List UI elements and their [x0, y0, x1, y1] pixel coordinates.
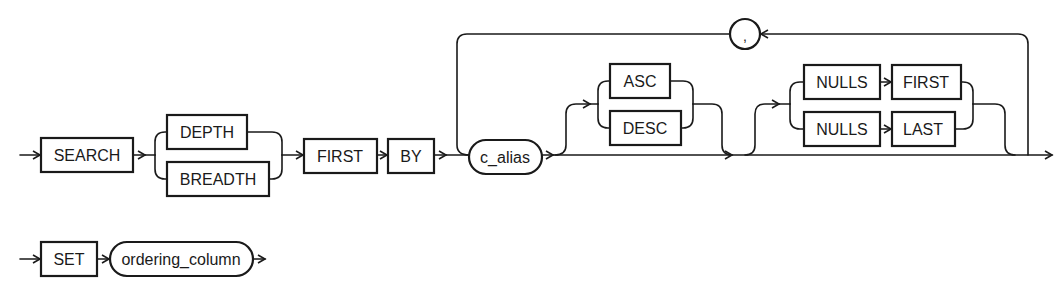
keyword-nulls-1: NULLS — [804, 65, 880, 99]
svg-text:LAST: LAST — [903, 121, 943, 138]
svg-text:NULLS: NULLS — [816, 121, 868, 138]
keyword-depth: DEPTH — [167, 115, 247, 149]
svg-text:FIRST: FIRST — [317, 148, 363, 165]
keyword-by: BY — [388, 139, 434, 173]
svg-text:DESC: DESC — [623, 120, 667, 137]
svg-text:BREADTH: BREADTH — [180, 171, 256, 188]
keyword-nulls-2: NULLS — [804, 112, 880, 146]
svg-text:SET: SET — [53, 251, 84, 268]
keyword-set: SET — [41, 242, 97, 276]
keyword-first: FIRST — [304, 139, 377, 173]
svg-text:ordering_column: ordering_column — [121, 251, 240, 269]
svg-text:DEPTH: DEPTH — [180, 124, 234, 141]
keyword-search: SEARCH — [41, 138, 133, 172]
svg-text:SEARCH: SEARCH — [54, 147, 121, 164]
railroad-diagram-canvas: SEARCH DEPTH BREADTH FIRST BY c_alias , — [0, 0, 1063, 300]
keyword-asc: ASC — [610, 64, 670, 98]
separator-comma: , — [730, 19, 760, 49]
syntax-diagram: SEARCH DEPTH BREADTH FIRST BY c_alias , — [0, 0, 1063, 300]
keyword-nulls-last: LAST — [892, 112, 955, 146]
repeat-loop-left — [457, 34, 730, 155]
svg-text:,: , — [743, 28, 747, 44]
svg-text:c_alias: c_alias — [480, 149, 530, 167]
keyword-breadth: BREADTH — [167, 162, 269, 196]
keyword-nulls-first: FIRST — [892, 65, 961, 99]
svg-text:NULLS: NULLS — [816, 74, 868, 91]
identifier-c-alias: c_alias — [469, 140, 542, 174]
identifier-ordering-column: ordering_column — [110, 242, 253, 276]
svg-text:ASC: ASC — [624, 73, 657, 90]
svg-text:BY: BY — [400, 148, 422, 165]
keyword-desc: DESC — [610, 111, 681, 145]
svg-text:FIRST: FIRST — [903, 74, 949, 91]
